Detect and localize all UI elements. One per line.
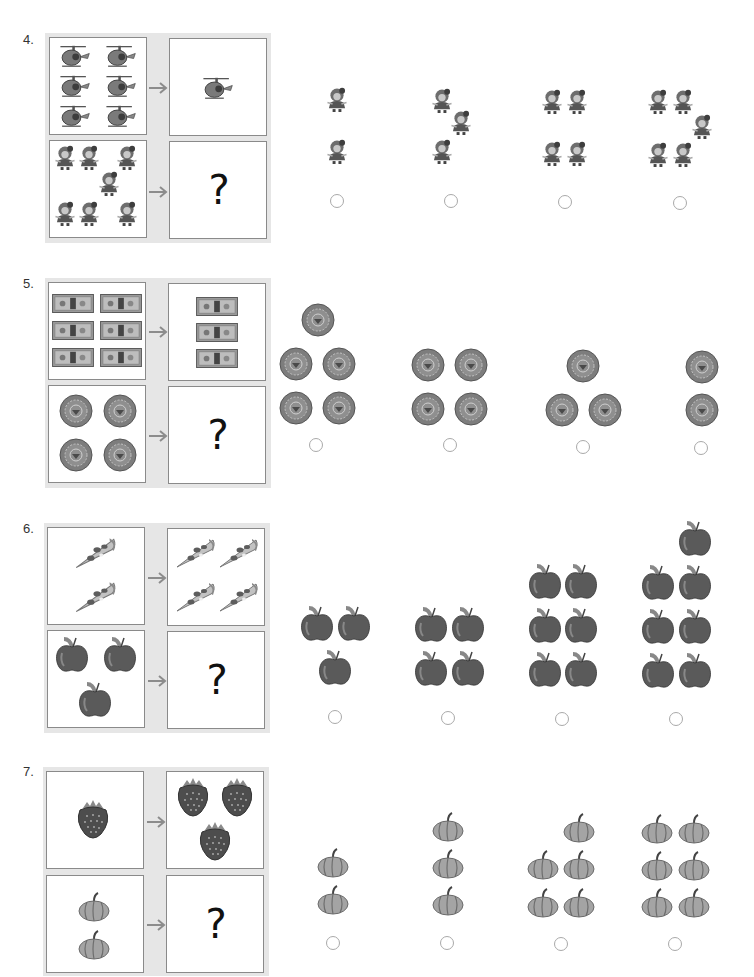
pumpkin-icon bbox=[316, 847, 350, 879]
pumpkin-icon bbox=[77, 930, 111, 960]
puzzle-left-panel bbox=[48, 385, 146, 483]
answer-radio[interactable] bbox=[555, 712, 569, 726]
pumpkin-icon bbox=[526, 887, 560, 919]
pumpkin-icon bbox=[431, 811, 465, 843]
apple-icon bbox=[77, 680, 113, 718]
coin-icon bbox=[59, 438, 93, 472]
dollar-bill-icon bbox=[196, 297, 238, 316]
dollar-bill-icon bbox=[52, 348, 94, 367]
question-mark: ? bbox=[167, 904, 265, 944]
coin-icon bbox=[322, 347, 356, 381]
pumpkin-icon bbox=[677, 887, 711, 919]
pumpkin-icon bbox=[677, 813, 711, 845]
coin-icon bbox=[411, 392, 445, 426]
doll-icon bbox=[54, 145, 76, 173]
question-mark: ? bbox=[170, 170, 268, 210]
pumpkin-icon bbox=[640, 813, 674, 845]
question-number: 6. bbox=[23, 521, 34, 536]
doll-icon bbox=[78, 145, 100, 173]
apple-icon bbox=[640, 648, 676, 692]
coin-icon bbox=[59, 394, 93, 428]
answer-radio[interactable] bbox=[328, 710, 342, 724]
helicopter-icon bbox=[200, 75, 234, 101]
answer-radio[interactable] bbox=[558, 195, 572, 209]
answer-radio[interactable] bbox=[554, 937, 568, 951]
apple-icon bbox=[317, 645, 353, 689]
answer-radio[interactable] bbox=[694, 441, 708, 455]
pizza-slice-icon bbox=[216, 581, 260, 615]
puzzle-answer-panel: ? bbox=[168, 386, 266, 484]
arrow-icon bbox=[148, 82, 168, 94]
helicopter-icon bbox=[57, 43, 91, 69]
helicopter-icon bbox=[103, 43, 137, 69]
apple-icon bbox=[450, 646, 486, 690]
puzzle-left-panel bbox=[49, 140, 147, 238]
apple-icon bbox=[527, 603, 563, 647]
example-left-panel bbox=[47, 527, 145, 625]
pumpkin-icon bbox=[677, 850, 711, 882]
answer-radio[interactable] bbox=[576, 440, 590, 454]
helicopter-icon bbox=[103, 73, 137, 99]
apple-icon bbox=[413, 602, 449, 646]
coin-icon bbox=[301, 303, 335, 337]
apple-icon bbox=[677, 560, 713, 604]
strawberry-icon bbox=[75, 800, 111, 840]
coin-icon bbox=[322, 391, 356, 425]
pumpkin-icon bbox=[640, 887, 674, 919]
doll-icon bbox=[691, 114, 713, 142]
arrow-icon bbox=[148, 326, 168, 338]
arrow-icon bbox=[148, 430, 168, 442]
apple-icon bbox=[640, 604, 676, 648]
dollar-bill-icon bbox=[100, 294, 142, 313]
pizza-slice-icon bbox=[72, 580, 118, 616]
apple-icon bbox=[563, 603, 599, 647]
answer-radio[interactable] bbox=[330, 194, 344, 208]
apple-icon bbox=[450, 602, 486, 646]
doll-icon bbox=[541, 89, 563, 117]
puzzle-answer-panel: ? bbox=[166, 875, 264, 973]
doll-icon bbox=[450, 110, 472, 138]
doll-icon bbox=[541, 141, 563, 169]
coin-icon bbox=[685, 393, 719, 427]
example-left-panel bbox=[49, 37, 147, 135]
coin-icon bbox=[588, 393, 622, 427]
helicopter-icon bbox=[103, 103, 137, 129]
answer-radio[interactable] bbox=[309, 438, 323, 452]
answer-radio[interactable] bbox=[668, 937, 682, 951]
question-mark: ? bbox=[168, 660, 266, 700]
coin-icon bbox=[454, 392, 488, 426]
answer-radio[interactable] bbox=[441, 711, 455, 725]
apple-icon bbox=[336, 601, 372, 645]
doll-icon bbox=[647, 142, 669, 170]
dollar-bill-icon bbox=[100, 321, 142, 340]
dollar-bill-icon bbox=[52, 321, 94, 340]
arrow-icon bbox=[146, 816, 166, 828]
arrow-icon bbox=[146, 919, 166, 931]
pumpkin-icon bbox=[526, 849, 560, 881]
coin-icon bbox=[411, 348, 445, 382]
answer-radio[interactable] bbox=[443, 438, 457, 452]
doll-icon bbox=[116, 145, 138, 173]
doll-icon bbox=[54, 201, 76, 229]
apple-icon bbox=[563, 559, 599, 603]
apple-icon bbox=[677, 604, 713, 648]
answer-radio[interactable] bbox=[669, 712, 683, 726]
answer-radio[interactable] bbox=[444, 194, 458, 208]
apple-icon bbox=[677, 648, 713, 692]
doll-icon bbox=[116, 201, 138, 229]
doll-icon bbox=[566, 89, 588, 117]
doll-icon bbox=[672, 142, 694, 170]
pumpkin-icon bbox=[431, 848, 465, 880]
apple-icon bbox=[102, 635, 138, 673]
example-right-panel bbox=[167, 528, 265, 626]
pizza-slice-icon bbox=[216, 537, 260, 571]
strawberry-icon bbox=[197, 822, 233, 862]
answer-radio[interactable] bbox=[440, 936, 454, 950]
question-number: 5. bbox=[23, 276, 34, 291]
doll-icon bbox=[672, 89, 694, 117]
answer-radio[interactable] bbox=[326, 936, 340, 950]
apple-icon bbox=[54, 635, 90, 673]
answer-radio[interactable] bbox=[673, 196, 687, 210]
doll-icon bbox=[98, 171, 120, 199]
arrow-icon bbox=[147, 572, 167, 584]
